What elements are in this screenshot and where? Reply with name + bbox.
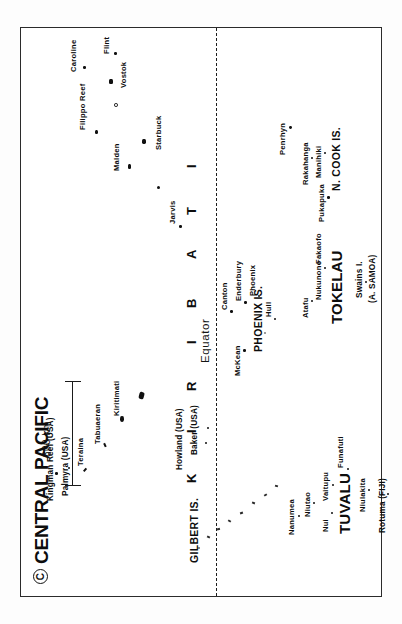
island-speck	[252, 501, 256, 504]
label-malden: Malden	[113, 143, 121, 171]
label-flint: Flint	[103, 37, 111, 54]
label-tokelau: TOKELAU	[329, 250, 344, 324]
label-mckean: McKean	[234, 345, 242, 376]
island-dot	[244, 301, 247, 304]
island-shape	[83, 468, 87, 473]
label-niutao: Niutao	[304, 492, 312, 517]
island-shape	[95, 130, 98, 134]
island-dot	[243, 349, 246, 352]
label-nanumea: Nanumea	[288, 499, 296, 535]
map-canvas: C CENTRAL PACIFIC 800 km Equator K I R I…	[20, 27, 382, 597]
island-dot	[157, 186, 160, 189]
island-shape	[142, 139, 146, 144]
island-speck	[240, 512, 244, 515]
island-shape	[103, 443, 107, 447]
label-nui: Nui	[322, 519, 330, 532]
label-filippo-reef: Filippo Reef	[79, 84, 87, 130]
island-speck	[207, 535, 211, 538]
island-speck	[275, 485, 278, 488]
island-dot	[311, 300, 313, 302]
island-dot	[365, 281, 367, 283]
island-dot	[387, 493, 389, 495]
country-letter-i3: I	[185, 164, 198, 168]
island-speck	[264, 493, 268, 496]
label-pukapuka: Pukapuka	[318, 184, 326, 222]
copyright-icon: C	[33, 569, 48, 584]
label-vostok: Vostok	[120, 62, 128, 88]
island-speck	[197, 547, 200, 549]
island-dot	[205, 442, 207, 444]
island-dot	[83, 66, 86, 69]
island-shape	[120, 416, 124, 422]
label-starbuck: Starbuck	[155, 116, 163, 151]
island-shape	[138, 392, 145, 400]
island-shape	[128, 164, 131, 169]
label-niulakita: Niulakita	[359, 478, 367, 512]
island-dot	[368, 489, 370, 491]
label-n-cook-is: N. COOK IS.	[331, 127, 342, 191]
island-dot	[230, 310, 233, 313]
country-letter-k: K	[185, 474, 198, 483]
label-vaitupu: Vaitupu	[322, 472, 330, 501]
label-american-samoa: (A. SAMOA)	[369, 255, 377, 303]
island-dot	[207, 427, 209, 429]
island-shape	[109, 79, 113, 84]
island-speck	[217, 528, 221, 531]
country-letter-i2: I	[185, 340, 198, 344]
island-dot	[347, 468, 349, 470]
map-page: C CENTRAL PACIFIC 800 km Equator K I R I…	[0, 0, 402, 624]
label-teraina: Teraina	[77, 438, 85, 466]
equator-label: Equator	[199, 319, 211, 363]
label-hull: Hull	[265, 302, 273, 317]
island-dot	[114, 52, 117, 55]
equator-line	[216, 28, 217, 596]
label-tabuaeran: Tabuaeran	[94, 404, 102, 444]
island-dot	[313, 502, 315, 504]
island-dot	[324, 267, 326, 269]
label-manihiki: Manihiki	[315, 146, 323, 178]
label-nukunono: Nukunono	[315, 260, 323, 300]
island-speck	[228, 519, 232, 522]
label-kingman-reef: Kingman Reef (USA)	[47, 417, 55, 501]
label-phoenix: Phoenix	[249, 265, 257, 296]
label-funafuti: Funafuti	[337, 436, 345, 468]
island-dot	[331, 512, 333, 514]
country-letter-t: T	[185, 207, 198, 215]
island-dot	[298, 515, 300, 517]
label-fakaofo: Fakaofo	[315, 233, 323, 264]
label-penrhyn: Penrhyn	[279, 123, 287, 155]
island-dot	[179, 225, 182, 228]
label-caroline: Caroline	[70, 40, 78, 72]
label-enderbury: Enderbury	[235, 261, 243, 301]
label-canton: Canton	[221, 282, 229, 310]
island-dot	[274, 318, 276, 320]
label-gilbert-is: GILBERT IS.	[189, 498, 200, 563]
island-dot	[324, 152, 326, 154]
label-rotuma: Rotuma (FIJI)	[379, 478, 387, 533]
island-dot	[289, 126, 292, 129]
island-dot	[55, 472, 58, 475]
label-atafu: Atafu	[302, 297, 310, 318]
island-dot	[332, 484, 334, 486]
label-tuvalu: TUVALU	[337, 473, 352, 534]
island-dot	[114, 103, 118, 107]
label-howland: Howland (USA)	[176, 408, 184, 470]
country-letter-b: B	[185, 299, 198, 308]
country-letter-r: R	[185, 382, 198, 391]
label-baker: Baker (USA)	[191, 405, 199, 455]
island-dot	[264, 332, 266, 334]
country-letter-a: A	[185, 250, 198, 259]
island-dot	[327, 196, 330, 199]
label-rakahanga: Rakahanga	[302, 142, 310, 185]
label-kiritimati: Kiritimati	[113, 381, 121, 416]
label-jarvis: Jarvis	[169, 201, 177, 224]
label-swains-i: Swains I.	[356, 261, 364, 298]
